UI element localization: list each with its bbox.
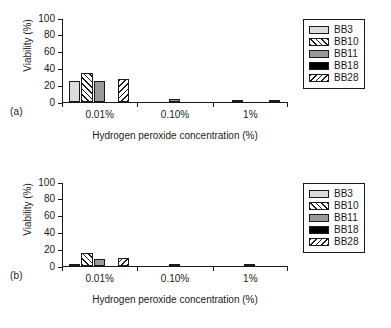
legend-swatch-bb28 — [309, 238, 329, 246]
legend-swatch-bb10 — [309, 38, 329, 46]
y-tick-label: 100 — [38, 177, 55, 188]
legend-label: BB10 — [334, 37, 358, 47]
x-tick — [213, 103, 214, 107]
panel-a: (a) Viability (%) 020406080100 0.01%0.10… — [0, 0, 391, 164]
y-tick: 60 — [58, 52, 62, 53]
legend-swatch-bb11 — [309, 50, 329, 58]
x-tick — [137, 103, 138, 107]
y-tick-label: 40 — [44, 227, 55, 238]
y-tick: 40 — [58, 69, 62, 70]
panel-a-x-axis-line — [62, 102, 288, 103]
y-tick: 100 — [58, 19, 62, 20]
panel-a-y-axis-title: Viability (%) — [22, 1, 33, 91]
legend-label: BB18 — [334, 61, 358, 71]
x-tick — [62, 103, 63, 107]
y-tick-label: 20 — [44, 80, 55, 91]
legend-label: BB18 — [334, 225, 358, 235]
x-tick — [287, 103, 288, 107]
y-tick-label: 80 — [44, 29, 55, 40]
y-tick-label: 40 — [44, 63, 55, 74]
legend-swatch-bb18 — [309, 62, 329, 70]
legend-label: BB11 — [334, 213, 358, 223]
y-tick: 80 — [58, 199, 62, 200]
bar-bb3-0-01pct — [69, 264, 80, 266]
x-tick — [213, 267, 214, 271]
bar-bb28-0-01pct — [118, 258, 129, 266]
panel-a-legend: BB3BB10BB11BB18BB28 — [303, 19, 365, 89]
legend-swatch-bb3 — [309, 190, 329, 198]
legend-row: BB18 — [309, 224, 358, 236]
bar-bb11-1pct — [244, 264, 255, 266]
x-group-label: 1% — [243, 109, 257, 120]
panel-b-y-axis-title: Viability (%) — [22, 165, 33, 255]
x-group-label: 0.01% — [85, 273, 113, 284]
legend-row: BB11 — [309, 48, 358, 60]
y-tick-label: 60 — [44, 46, 55, 57]
y-tick-label: 0 — [49, 261, 55, 272]
legend-label: BB11 — [334, 49, 358, 59]
panel-b-legend: BB3BB10BB11BB18BB28 — [303, 183, 365, 253]
legend-row: BB3 — [309, 188, 358, 200]
y-tick: 40 — [58, 233, 62, 234]
x-group-label: 1% — [243, 273, 257, 284]
legend-swatch-bb28 — [309, 74, 329, 82]
legend-label: BB28 — [334, 73, 358, 83]
panel-a-x-axis-title: Hydrogen peroxide concentration (%) — [62, 130, 288, 141]
bar-bb10-0-01pct — [81, 73, 92, 102]
panel-b-x-axis-title: Hydrogen peroxide concentration (%) — [62, 294, 288, 305]
bar-bb11-0-10pct — [169, 99, 180, 102]
bar-bb28-1pct — [269, 100, 280, 102]
y-tick: 80 — [58, 35, 62, 36]
y-tick: 20 — [58, 86, 62, 87]
x-tick — [137, 267, 138, 271]
y-tick: 100 — [58, 183, 62, 184]
legend-row: BB10 — [309, 36, 358, 48]
figure-viability-vs-peroxide: (a) Viability (%) 020406080100 0.01%0.10… — [0, 0, 391, 328]
y-tick: 60 — [58, 216, 62, 217]
x-tick — [62, 267, 63, 271]
legend-row: BB28 — [309, 236, 358, 248]
legend-swatch-bb10 — [309, 202, 329, 210]
bar-bb3-0-01pct — [69, 81, 80, 102]
bar-bb11-0-10pct — [169, 264, 180, 266]
panel-b-x-axis-line — [62, 266, 288, 267]
y-tick-label: 60 — [44, 210, 55, 221]
bar-bb28-0-01pct — [118, 79, 129, 102]
bar-bb10-0-01pct — [81, 253, 92, 266]
legend-row: BB10 — [309, 200, 358, 212]
bar-bb11-0-01pct — [94, 259, 105, 266]
bar-bb11-0-01pct — [94, 81, 105, 102]
y-tick: 20 — [58, 250, 62, 251]
legend-row: BB28 — [309, 72, 358, 84]
panel-a-letter: (a) — [10, 106, 23, 117]
y-tick-label: 0 — [49, 97, 55, 108]
x-tick — [287, 267, 288, 271]
bar-bb10-1pct — [232, 100, 243, 102]
legend-label: BB3 — [334, 189, 353, 199]
panel-b-y-axis-line — [62, 183, 63, 267]
legend-label: BB10 — [334, 201, 358, 211]
panel-b-letter: (b) — [10, 270, 23, 281]
legend-row: BB3 — [309, 24, 358, 36]
y-tick-label: 100 — [38, 13, 55, 24]
legend-row: BB18 — [309, 60, 358, 72]
legend-swatch-bb11 — [309, 214, 329, 222]
legend-label: BB3 — [334, 25, 353, 35]
x-group-label: 0.10% — [161, 273, 189, 284]
y-tick-label: 20 — [44, 244, 55, 255]
legend-swatch-bb3 — [309, 26, 329, 34]
panel-b-plot-area: 020406080100 0.01%0.10%1% — [62, 183, 288, 267]
legend-label: BB28 — [334, 237, 358, 247]
panel-b: (b) Viability (%) 020406080100 0.01%0.10… — [0, 164, 391, 328]
legend-row: BB11 — [309, 212, 358, 224]
x-group-label: 0.01% — [85, 109, 113, 120]
y-tick-label: 80 — [44, 193, 55, 204]
panel-a-y-axis-line — [62, 19, 63, 103]
panel-a-plot-area: 020406080100 0.01%0.10%1% — [62, 19, 288, 103]
legend-swatch-bb18 — [309, 226, 329, 234]
x-group-label: 0.10% — [161, 109, 189, 120]
